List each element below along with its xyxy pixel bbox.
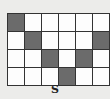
shaded-cell (8, 14, 24, 31)
shaded-cell (42, 50, 58, 67)
shaded-cell (93, 32, 109, 49)
empty-cell (8, 32, 24, 49)
figure-label: S (0, 83, 110, 96)
empty-cell (93, 50, 109, 67)
shaded-cell (76, 50, 92, 67)
empty-cell (59, 14, 75, 31)
empty-cell (25, 50, 41, 67)
empty-cell (76, 32, 92, 49)
grid-figure (7, 13, 110, 86)
empty-cell (59, 32, 75, 49)
empty-cell (42, 32, 58, 49)
empty-cell (8, 50, 24, 67)
empty-cell (76, 14, 92, 31)
empty-cell (42, 14, 58, 31)
empty-cell (59, 50, 75, 67)
empty-cell (25, 14, 41, 31)
shaded-cell (25, 32, 41, 49)
empty-cell (93, 14, 109, 31)
